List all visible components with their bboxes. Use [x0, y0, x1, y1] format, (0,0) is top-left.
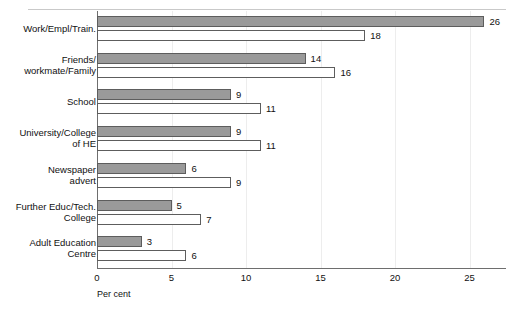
bar-value-label: 9: [236, 126, 241, 137]
bar-value-label: 9: [236, 89, 241, 100]
category-label: Newspaperadvert: [48, 164, 96, 186]
bar: [97, 103, 261, 114]
category-label-line: College: [16, 212, 96, 223]
bar-value-label: 16: [340, 67, 351, 78]
bar-value-label: 5: [177, 200, 182, 211]
category-label-line: workmate/Family: [24, 65, 96, 76]
bar-value-label: 3: [147, 236, 152, 247]
x-axis-tick-label: 15: [315, 272, 326, 283]
gridline: [321, 11, 322, 268]
bar: [97, 236, 142, 247]
bar: [97, 250, 186, 261]
category-label-line: University/College: [19, 127, 96, 138]
bar: [97, 30, 365, 41]
category-label: School: [67, 96, 96, 107]
bar: [97, 89, 231, 100]
bar: [97, 214, 201, 225]
bar-value-label: 26: [489, 16, 500, 27]
x-axis-tick-label: 10: [241, 272, 252, 283]
bar: [97, 163, 186, 174]
bar: [97, 126, 231, 137]
bar: [97, 177, 231, 188]
bar: [97, 67, 335, 78]
category-label-line: of HE: [19, 138, 96, 149]
category-label-line: Newspaper: [48, 164, 96, 175]
category-label-line: advert: [48, 175, 96, 186]
category-label-line: Work/Empl/Train.: [23, 23, 96, 34]
bar-value-label: 6: [191, 163, 196, 174]
category-label-line: Centre: [29, 248, 96, 259]
bar-value-label: 14: [311, 53, 322, 64]
gridline: [395, 11, 396, 268]
bar: [97, 140, 261, 151]
bar-value-label: 18: [370, 30, 381, 41]
category-label: Adult EducationCentre: [29, 237, 96, 259]
category-label: Friends/workmate/Family: [24, 54, 96, 76]
x-axis-tick-label: 25: [464, 272, 475, 283]
category-label-line: School: [67, 96, 96, 107]
bar-value-label: 11: [266, 103, 276, 114]
category-label: Further Educ/Tech.College: [16, 201, 96, 223]
bar-value-label: 7: [206, 214, 211, 225]
bar-value-label: 6: [191, 250, 196, 261]
bar-value-label: 11: [266, 140, 276, 151]
bar: [97, 16, 484, 27]
category-label-line: Adult Education: [29, 237, 96, 248]
gridline: [470, 11, 471, 268]
x-axis-title: Per cent: [97, 289, 131, 300]
x-axis-line: [97, 268, 506, 269]
bar: [97, 53, 306, 64]
x-axis-tick-label: 5: [169, 272, 174, 283]
category-label-line: Further Educ/Tech.: [16, 201, 96, 212]
category-label-line: Friends/: [24, 54, 96, 65]
bar-value-label: 9: [236, 177, 241, 188]
x-axis-tick-label: 0: [94, 272, 99, 283]
x-axis-tick-label: 20: [390, 272, 401, 283]
bar-chart: Work/Empl/Train.Friends/workmate/FamilyS…: [0, 0, 525, 325]
plot-area: Work/Empl/Train.Friends/workmate/FamilyS…: [0, 0, 525, 325]
category-label: Work/Empl/Train.: [23, 23, 96, 34]
category-label: University/Collegeof HE: [19, 127, 96, 149]
bar: [97, 200, 172, 211]
